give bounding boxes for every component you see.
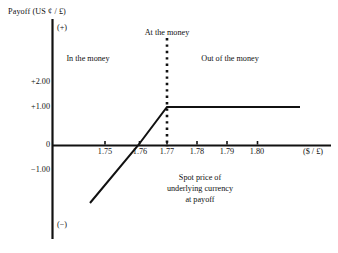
y-tick-label-2: +2.00 [6,78,50,86]
x-tick-label-177: 1.77 [150,148,184,156]
x-tick-marks [105,141,258,145]
annotation-at-the-money: At the money [122,29,212,37]
annotation-spot-line-3: at payoff [185,195,214,204]
annotation-in-the-money: In the money [48,55,128,63]
axis-positive-sign: (+) [57,24,67,32]
chart-canvas [0,0,338,253]
x-axis-title: ($ / £) [288,148,338,156]
y-axis-title: Payoff (US ¢ / £) [8,8,66,16]
payoff-chart: Payoff (US ¢ / £) (+) (−) +2.00 +1.00 0 … [0,0,338,253]
x-tick-label-179: 1.79 [210,148,244,156]
x-tick-label-175: 1.75 [88,148,122,156]
annotation-spot-line-2: underlying currency [167,184,233,193]
x-tick-label-178: 1.78 [180,148,214,156]
y-tick-label-neg1: −1.00 [6,166,50,174]
axis-negative-sign: (−) [57,221,67,229]
x-tick-label-180: 1.80 [240,148,274,156]
y-tick-label-1: +1.00 [6,103,50,111]
annotation-spot-price: Spot price of underlying currency at pay… [140,172,260,205]
y-tick-label-0: 0 [6,141,50,149]
annotation-spot-line-1: Spot price of [179,173,221,182]
annotation-out-of-the-money: Out of the money [180,55,280,63]
